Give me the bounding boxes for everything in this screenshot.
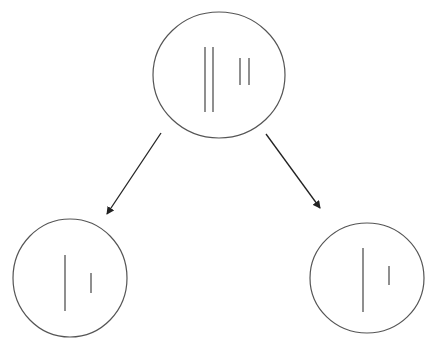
node-circle — [13, 219, 127, 337]
node-circle — [153, 12, 285, 138]
arrow-child-right — [266, 134, 320, 208]
node-child-left — [13, 219, 127, 337]
nodes-group — [13, 12, 424, 337]
node-circle — [310, 223, 424, 333]
arrow-child-left — [107, 133, 161, 214]
node-parent — [153, 12, 285, 138]
edges-group — [107, 133, 320, 214]
diagram-canvas — [0, 0, 437, 349]
node-child-right — [310, 223, 424, 333]
